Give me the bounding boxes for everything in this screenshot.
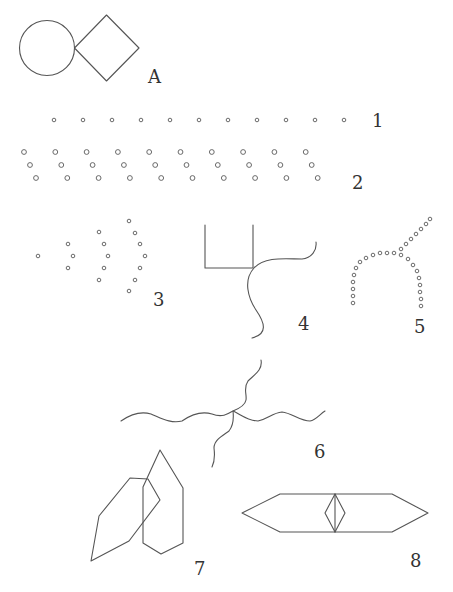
dot — [197, 118, 201, 122]
dot — [241, 150, 246, 155]
open-rectangle — [205, 225, 253, 268]
dot — [404, 242, 408, 246]
dot — [90, 163, 95, 168]
dot — [65, 176, 70, 181]
dot — [139, 118, 143, 122]
dot — [66, 266, 70, 270]
dot — [428, 217, 432, 221]
label-a: A — [147, 66, 162, 87]
dot — [352, 273, 356, 277]
dot — [226, 118, 230, 122]
dot — [385, 251, 389, 255]
dot — [247, 163, 252, 168]
dot — [53, 150, 58, 155]
diamond-shape — [75, 15, 140, 81]
dot — [66, 242, 70, 246]
dot — [22, 150, 27, 155]
vertical-wave — [212, 360, 261, 467]
dot — [28, 163, 33, 168]
dot — [419, 297, 423, 301]
dot — [315, 176, 320, 181]
dot — [378, 251, 382, 255]
dot — [184, 163, 189, 168]
dot — [358, 260, 362, 264]
dot — [303, 150, 308, 155]
dot — [147, 150, 152, 155]
dot — [81, 118, 85, 122]
dot — [133, 231, 137, 235]
dot — [351, 294, 355, 298]
dot — [84, 150, 89, 155]
dot — [59, 163, 64, 168]
dot — [97, 278, 101, 282]
dot — [411, 263, 415, 267]
dot — [178, 150, 183, 155]
dot — [96, 176, 101, 181]
label-8: 8 — [410, 550, 421, 571]
dot — [424, 222, 428, 226]
dot — [255, 118, 259, 122]
dot — [406, 257, 410, 261]
panel-8: 8 — [242, 494, 428, 571]
dot — [127, 219, 131, 223]
dot — [351, 287, 355, 291]
dot — [409, 237, 413, 241]
dot — [418, 290, 422, 294]
panel-3 — [36, 219, 147, 293]
dot — [159, 176, 164, 181]
dot — [36, 254, 40, 258]
panel-4: 4 — [205, 225, 316, 338]
dot — [215, 163, 220, 168]
panel-7: 7 — [91, 450, 205, 579]
dot — [415, 269, 419, 273]
panel-1 — [52, 118, 346, 122]
label-7: 7 — [194, 558, 205, 579]
dot — [272, 150, 277, 155]
label-6: 6 — [314, 441, 325, 462]
dot — [168, 118, 172, 122]
dot — [138, 266, 142, 270]
dot — [392, 251, 396, 255]
horizontal-wave — [121, 411, 325, 422]
dot — [419, 227, 423, 231]
label-3: 3 — [153, 289, 164, 310]
label-5: 5 — [414, 316, 425, 337]
dot — [102, 242, 106, 246]
dot — [34, 176, 39, 181]
dot — [253, 176, 258, 181]
dot — [102, 266, 106, 270]
dot — [414, 232, 418, 236]
dot — [122, 163, 127, 168]
panel-5 — [351, 217, 432, 308]
dot — [110, 118, 114, 122]
dot — [399, 253, 403, 257]
dot — [71, 254, 75, 258]
dot — [284, 118, 288, 122]
dot — [284, 176, 289, 181]
dot — [351, 301, 355, 305]
panel-6: 6 — [121, 360, 325, 467]
dot — [106, 254, 110, 258]
panel-a: A — [20, 15, 163, 87]
label-1: 1 — [372, 110, 383, 131]
dot — [342, 118, 346, 122]
dot — [399, 247, 403, 251]
panel-2 — [22, 150, 321, 181]
dot — [127, 289, 131, 293]
dot — [143, 254, 147, 258]
dot — [209, 150, 214, 155]
dot — [127, 176, 132, 181]
dot — [190, 176, 195, 181]
dot — [354, 266, 358, 270]
dot — [133, 278, 137, 282]
dot — [278, 163, 283, 168]
dot — [52, 118, 56, 122]
dot — [418, 283, 422, 287]
dot — [417, 276, 421, 280]
dot — [364, 256, 368, 260]
dot — [221, 176, 226, 181]
diagram-canvas: A 1 2 3 4 5 6 7 8 — [0, 0, 453, 592]
dot — [313, 118, 317, 122]
label-2: 2 — [352, 172, 363, 193]
pencil-hexagon — [143, 450, 183, 554]
